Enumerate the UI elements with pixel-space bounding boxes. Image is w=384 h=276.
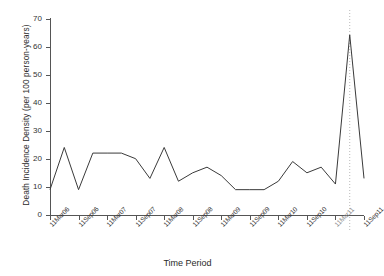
x-tick-label: 11Mar07: [105, 205, 128, 228]
x-tick-label: 11Sep09: [248, 205, 271, 228]
x-tick-label: 11Sep07: [134, 205, 157, 228]
x-tick-label: 11Sep11: [362, 206, 384, 228]
x-tick-label: 11Mar06: [48, 205, 71, 228]
x-tick-label: 11Mar08: [162, 205, 185, 228]
x-tick-label: 11Mar09: [219, 205, 242, 228]
x-tick-label: 11Mar10: [276, 205, 299, 228]
x-tick-label: 11Sep08: [191, 205, 214, 228]
x-tick-label: 11Mar11: [333, 206, 355, 228]
x-tick-label: 11Sep10: [305, 205, 328, 228]
x-axis-title: Time Period: [0, 258, 375, 268]
x-tick-label: 11Sep06: [77, 205, 100, 228]
